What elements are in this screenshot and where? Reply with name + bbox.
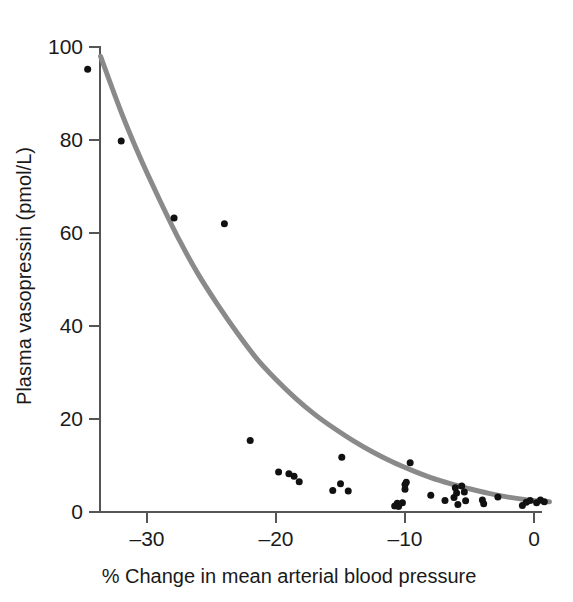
scatter-plot: 020406080100 –30–20–100 Plasma vasopress… xyxy=(0,0,573,602)
data-point xyxy=(275,469,282,476)
data-point xyxy=(453,489,460,496)
data-point xyxy=(403,479,410,486)
data-point xyxy=(480,500,487,507)
y-axis-tick-label: 40 xyxy=(60,314,83,337)
figure-container: 020406080100 –30–20–100 Plasma vasopress… xyxy=(0,0,573,602)
data-point xyxy=(527,497,534,504)
data-point xyxy=(461,489,468,496)
x-axis-title: % Change in mean arterial blood pressure xyxy=(102,565,477,587)
data-point xyxy=(441,497,448,504)
data-point xyxy=(291,473,298,480)
y-axis-tick-label: 100 xyxy=(48,35,83,58)
data-point xyxy=(296,478,303,485)
y-axis-tick-label: 80 xyxy=(60,128,83,151)
data-point xyxy=(458,482,465,489)
y-axis-title: Plasma vasopressin (pmol/L) xyxy=(13,147,35,405)
data-point xyxy=(337,480,344,487)
data-point xyxy=(247,437,254,444)
y-axis-tick-label: 20 xyxy=(60,407,83,430)
data-point xyxy=(84,66,91,73)
x-axis-tick-label: –20 xyxy=(258,527,293,550)
data-point xyxy=(427,492,434,499)
data-point xyxy=(454,501,461,508)
x-axis-tick-label: –10 xyxy=(387,527,422,550)
data-point xyxy=(171,215,178,222)
x-axis-tick-label: –30 xyxy=(129,527,164,550)
y-axis-tick-label: 60 xyxy=(60,221,83,244)
data-point xyxy=(462,497,469,504)
data-point xyxy=(329,487,336,494)
data-point xyxy=(494,494,501,501)
data-point xyxy=(338,454,345,461)
data-point xyxy=(118,137,125,144)
y-axis-tick-label: 0 xyxy=(71,500,83,523)
data-point xyxy=(402,486,409,493)
data-point xyxy=(221,220,228,227)
data-point xyxy=(345,488,352,495)
data-point xyxy=(407,459,414,466)
data-point xyxy=(541,498,548,505)
x-axis-tick-label: 0 xyxy=(528,527,540,550)
data-point xyxy=(399,499,406,506)
